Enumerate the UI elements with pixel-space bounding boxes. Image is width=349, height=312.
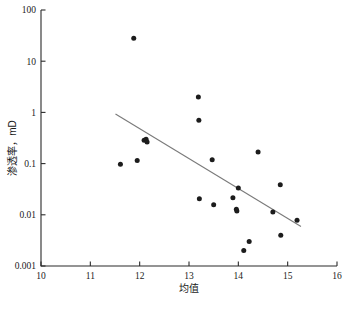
- data-point: [196, 94, 201, 99]
- data-point: [145, 139, 150, 144]
- x-tick-label: 16: [332, 271, 342, 281]
- data-point: [135, 158, 140, 163]
- data-point: [118, 162, 123, 167]
- y-tick-label: 10: [27, 57, 37, 67]
- permeability-scatter-chart: 渗透率，mD 均值 1001010.10.010.001 10111213141…: [0, 0, 349, 312]
- x-tick-label: 11: [86, 271, 95, 281]
- data-point: [236, 185, 241, 190]
- data-point: [278, 182, 283, 187]
- x-tick-label: 13: [184, 271, 194, 281]
- x-tick-label: 12: [135, 271, 145, 281]
- y-tick-label: 0.1: [24, 159, 36, 169]
- data-point: [131, 36, 136, 41]
- data-point: [247, 239, 252, 244]
- data-point: [270, 210, 275, 215]
- x-tick-label: 14: [234, 271, 244, 281]
- data-point: [210, 157, 215, 162]
- chart-canvas: 渗透率，mD 均值 1001010.10.010.001 10111213141…: [0, 0, 349, 312]
- x-axis-ticks: 10111213141516: [36, 262, 342, 282]
- axis-spines: [41, 10, 337, 266]
- y-axis-title: 渗透率，mD: [6, 120, 18, 176]
- data-point: [196, 118, 201, 123]
- data-point: [211, 202, 216, 207]
- data-point: [295, 218, 300, 223]
- y-tick-label: 100: [22, 5, 37, 15]
- data-points: [118, 36, 300, 253]
- data-point: [197, 196, 202, 201]
- x-tick-label: 15: [283, 271, 293, 281]
- data-point: [278, 233, 283, 238]
- y-tick-label: 1: [31, 108, 36, 118]
- x-axis-title: 均值: [179, 282, 199, 294]
- data-point: [234, 209, 239, 214]
- y-tick-label: 0.01: [19, 210, 36, 220]
- data-point: [230, 195, 235, 200]
- data-point: [256, 150, 261, 155]
- data-point: [241, 248, 246, 253]
- y-tick-label: 0.001: [15, 261, 37, 271]
- x-tick-label: 10: [36, 271, 46, 281]
